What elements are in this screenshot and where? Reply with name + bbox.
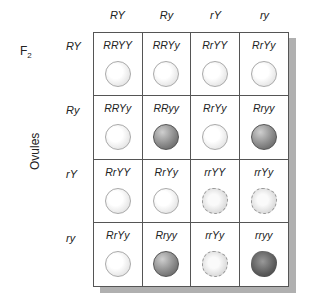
wrinkled-yellow-pea-icon: [202, 251, 228, 277]
genotype-label: Rryy: [143, 229, 191, 241]
wrinkled-green-pea-icon: [251, 251, 277, 277]
column-header-2: rY: [191, 9, 240, 21]
row-header-1: Ry: [66, 104, 86, 116]
generation-subscript: 2: [27, 51, 31, 60]
genotype-label: Rryy: [240, 102, 289, 114]
round-yellow-pea-icon: [202, 124, 228, 150]
round-yellow-pea-icon: [202, 61, 228, 87]
genotype-label: RRYy: [94, 102, 142, 114]
round-yellow-pea-icon: [153, 188, 179, 214]
genotype-label: RrYy: [143, 166, 191, 178]
cell-2-2: rrYY: [191, 160, 240, 223]
cell-2-3: rrYy: [240, 160, 289, 223]
round-green-pea-icon: [153, 124, 179, 150]
round-green-pea-icon: [251, 124, 277, 150]
round-yellow-pea-icon: [105, 61, 131, 87]
column-header-3: ry: [240, 9, 289, 21]
round-yellow-pea-icon: [105, 124, 131, 150]
genotype-label: RRYy: [143, 39, 191, 51]
genotype-label: RrYy: [94, 229, 142, 241]
genotype-label: RRyy: [143, 102, 191, 114]
cell-3-0: RrYy: [94, 223, 143, 286]
row-header-2: rY: [66, 168, 86, 180]
round-yellow-pea-icon: [251, 61, 277, 87]
ovules-axis-label: Ovules: [28, 133, 42, 170]
genotype-label: RrYY: [94, 166, 142, 178]
genotype-label: RrYy: [191, 102, 239, 114]
cell-2-1: RrYy: [143, 160, 192, 223]
cell-1-1: RRyy: [143, 96, 192, 159]
round-yellow-pea-icon: [105, 251, 131, 277]
genotype-label: RRYY: [94, 39, 142, 51]
genotype-label: rryy: [240, 229, 289, 241]
cell-0-0: RRYY: [94, 33, 143, 96]
column-header-1: Ry: [142, 9, 191, 21]
cell-1-0: RRYy: [94, 96, 143, 159]
punnett-square: RRYY RRYy RrYY RrYy RRYy RRyy RrYy Rryy …: [93, 32, 289, 287]
cell-3-2: rrYy: [191, 223, 240, 286]
genotype-label: rrYy: [191, 229, 239, 241]
column-header-0: RY: [93, 9, 142, 21]
genotype-label: RrYY: [191, 39, 239, 51]
round-yellow-pea-icon: [105, 188, 131, 214]
cell-3-1: Rryy: [143, 223, 192, 286]
cell-0-1: RRYy: [143, 33, 192, 96]
round-green-pea-icon: [153, 251, 179, 277]
cell-0-3: RrYy: [240, 33, 289, 96]
row-header-3: ry: [66, 232, 86, 244]
wrinkled-yellow-pea-icon: [251, 188, 277, 214]
cell-2-0: RrYY: [94, 160, 143, 223]
cell-1-3: Rryy: [240, 96, 289, 159]
cell-3-3: rryy: [240, 223, 289, 286]
generation-label: F2: [20, 44, 32, 60]
cell-0-2: RrYY: [191, 33, 240, 96]
genotype-label: RrYy: [240, 39, 289, 51]
genotype-label: rrYY: [191, 166, 239, 178]
genotype-label: rrYy: [240, 166, 289, 178]
row-header-0: RY: [66, 40, 86, 52]
cell-1-2: RrYy: [191, 96, 240, 159]
wrinkled-yellow-pea-icon: [202, 188, 228, 214]
round-yellow-pea-icon: [153, 61, 179, 87]
